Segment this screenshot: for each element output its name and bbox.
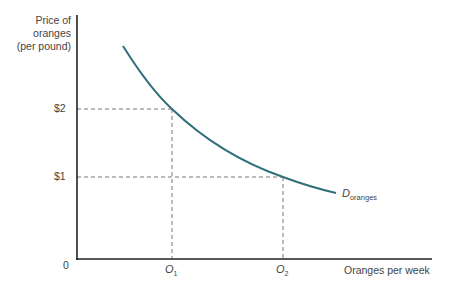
- demand-label-main: D: [342, 187, 350, 199]
- y-axis-label-line-3: (per pound): [17, 40, 71, 53]
- x-tick-o1-main: O: [165, 263, 174, 275]
- x-tick-o2-sub: 2: [285, 270, 289, 277]
- y-tick-1: $1: [54, 170, 66, 182]
- x-axis-label: Oranges per week: [344, 264, 430, 276]
- x-tick-o1-sub: 1: [174, 270, 178, 277]
- x-tick-o2-main: O: [276, 263, 285, 275]
- demand-label-sub: oranges: [350, 193, 377, 202]
- y-axis-label: Price of oranges (per pound): [17, 14, 71, 53]
- y-tick-2: $2: [54, 102, 66, 114]
- y-axis-label-line-1: Price of: [17, 14, 71, 27]
- y-axis-label-line-2: oranges: [17, 27, 71, 40]
- demand-curve: [123, 46, 336, 193]
- x-tick-o2: O2: [276, 263, 288, 277]
- origin-label: 0: [63, 259, 69, 271]
- demand-curve-label: Doranges: [342, 187, 377, 202]
- x-tick-o1: O1: [165, 263, 177, 277]
